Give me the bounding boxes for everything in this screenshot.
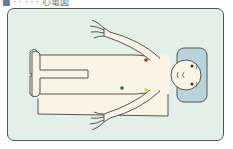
yellow-electrode (144, 88, 148, 92)
upper-hand (90, 20, 104, 38)
green-electrode (120, 86, 124, 90)
red-electrode (144, 58, 148, 62)
eye-right (191, 83, 194, 86)
eye-left (191, 65, 194, 68)
body-diagram (0, 0, 233, 149)
